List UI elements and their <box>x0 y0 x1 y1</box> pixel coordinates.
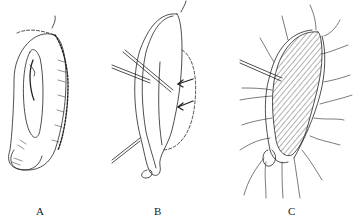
ear-illustration-a <box>9 16 68 170</box>
panel-label-b: B <box>154 205 161 217</box>
figure: A B C <box>0 0 354 224</box>
ear-illustration-b <box>112 1 196 178</box>
hatched-illustration-c <box>240 5 352 198</box>
panel-label-a: A <box>36 205 44 217</box>
panel-label-c: C <box>288 205 295 217</box>
arrow-icon <box>178 101 193 110</box>
panel-a-ear-drawing <box>0 0 354 224</box>
